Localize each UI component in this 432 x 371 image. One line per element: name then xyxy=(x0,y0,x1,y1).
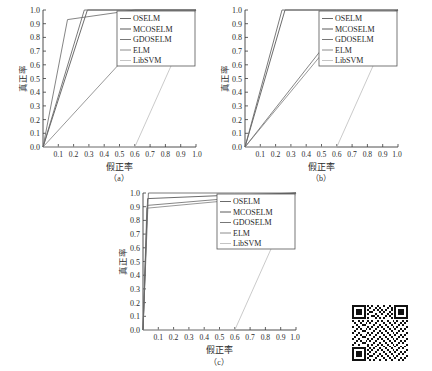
panel-caption-a: （a） xyxy=(109,174,129,183)
y-tick-label: 0.1 xyxy=(130,312,140,321)
y-tick-label: 0.8 xyxy=(30,33,40,42)
panel-caption-b: （b） xyxy=(311,174,331,183)
y-tick-label: 0.2 xyxy=(232,116,242,125)
x-tick-label: 0.6 xyxy=(130,150,140,159)
legend-label-oselm-c: OSELM xyxy=(233,197,260,206)
x-tick-label: 0.9 xyxy=(176,150,186,159)
y-tick-label: 0.0 xyxy=(232,143,242,152)
qr-code xyxy=(352,305,408,361)
y-tick-label: 0.3 xyxy=(30,102,40,111)
y-tick-label: 0.2 xyxy=(130,299,140,308)
y-tick-label: 0.4 xyxy=(130,271,140,280)
x-tick-label: 0.8 xyxy=(261,333,271,342)
legend-label-elm-b: ELM xyxy=(335,46,352,55)
y-tick-label: 0.7 xyxy=(232,47,242,56)
y-tick-label: 0.0 xyxy=(30,143,40,152)
legend-label-oselm-a: OSELM xyxy=(133,14,160,23)
legend-label-libsvm-a: LibSVM xyxy=(133,56,161,65)
y-tick-label: 0.5 xyxy=(30,75,40,84)
y-tick-label: 0.0 xyxy=(130,326,140,335)
x-axis-label-a: 假正率 xyxy=(106,161,133,172)
legend-label-mcoselm-c: MCOSELM xyxy=(233,208,273,217)
x-tick-label: 0.1 xyxy=(256,150,266,159)
legend-label-mcoselm-b: MCOSELM xyxy=(335,25,375,34)
x-tick-label: 0.7 xyxy=(145,150,155,159)
legend-label-libsvm-c: LibSVM xyxy=(233,239,261,248)
qr-code-svg xyxy=(352,305,408,361)
x-tick-label: 0.9 xyxy=(378,150,388,159)
y-tick-label: 0.6 xyxy=(232,61,242,70)
x-tick-label: 1.0 xyxy=(290,333,300,342)
x-tick-label: 0.6 xyxy=(332,150,342,159)
chart-panel-b: 1.0 0.9 0.8 0.7 0.6 0.5 0.4 0.3 0.2 0.1 … xyxy=(216,0,432,185)
legend-label-elm-a: ELM xyxy=(133,46,150,55)
legend-label-elm-c: ELM xyxy=(233,229,250,238)
x-tick-label: 0.5 xyxy=(215,333,225,342)
y-tick-label: 0.9 xyxy=(232,20,242,29)
x-tick-label: 0.4 xyxy=(199,333,209,342)
y-tick-label: 0.6 xyxy=(30,61,40,70)
x-tick-label: 1.0 xyxy=(392,150,402,159)
y-tick-label: 0.8 xyxy=(232,33,242,42)
x-tick-label: 0.5 xyxy=(317,150,327,159)
legend-c: OSELM MCOSELM GDOSELM ELM LibSVM xyxy=(217,194,295,249)
x-tick-label: 0.4 xyxy=(301,150,311,159)
x-tick-label: 0.5 xyxy=(115,150,125,159)
x-tick-label: 0.2 xyxy=(271,150,281,159)
figure-roc-curves: 1.0 0.9 0.8 0.7 0.6 0.5 0.4 0.3 0.2 0.1 … xyxy=(0,0,432,371)
y-tick-label: 0.8 xyxy=(130,216,140,225)
y-tick-label: 0.2 xyxy=(30,116,40,125)
x-axis-ticklabels-b: 0.1 0.2 0.3 0.4 0.5 0.6 0.7 0.8 0.9 1.0 xyxy=(256,150,402,159)
y-tick-label: 0.7 xyxy=(130,230,140,239)
x-axis-ticklabels-a: 0.1 0.2 0.3 0.4 0.5 0.6 0.7 0.8 0.9 1.0 xyxy=(54,150,202,159)
x-tick-label: 0.9 xyxy=(276,333,286,342)
chart-panel-a: 1.0 0.9 0.8 0.7 0.6 0.5 0.4 0.3 0.2 0.1 … xyxy=(0,0,216,185)
y-axis-label-c: 真正率 xyxy=(118,248,128,275)
chart-svg-b: 1.0 0.9 0.8 0.7 0.6 0.5 0.4 0.3 0.2 0.1 … xyxy=(216,0,432,185)
x-axis-ticklabels-c: 0.1 0.2 0.3 0.4 0.5 0.6 0.7 0.8 0.9 1.0 xyxy=(154,333,300,342)
x-tick-label: 0.4 xyxy=(99,150,109,159)
x-tick-label: 0.1 xyxy=(154,333,164,342)
y-tick-label: 0.5 xyxy=(232,75,242,84)
legend-label-gdoselm-c: GDOSELM xyxy=(233,218,272,227)
y-axis-ticklabels-c: 1.0 0.9 0.8 0.7 0.6 0.5 0.4 0.3 0.2 0.1 … xyxy=(130,189,140,335)
x-tick-label: 0.8 xyxy=(363,150,373,159)
x-tick-label: 0.7 xyxy=(245,333,255,342)
panel-caption-c: （c） xyxy=(209,358,229,367)
chart-panel-c: 1.0 0.9 0.8 0.7 0.6 0.5 0.4 0.3 0.2 0.1 … xyxy=(100,183,320,371)
y-tick-label: 0.4 xyxy=(232,88,242,97)
y-tick-label: 1.0 xyxy=(30,6,40,15)
x-tick-label: 0.2 xyxy=(169,333,179,342)
legend-a: OSELM MCOSELM GDOSELM ELM LibSVM xyxy=(117,11,195,66)
x-tick-label: 0.6 xyxy=(230,333,240,342)
x-axis-label-b: 假正率 xyxy=(308,161,335,172)
x-tick-label: 0.3 xyxy=(184,333,194,342)
x-tick-label: 0.3 xyxy=(286,150,296,159)
legend-label-libsvm-b: LibSVM xyxy=(335,56,363,65)
y-axis-label-a: 真正率 xyxy=(18,65,28,92)
x-tick-label: 0.7 xyxy=(347,150,357,159)
x-tick-label: 0.3 xyxy=(84,150,94,159)
x-axis-ticks-c xyxy=(158,327,296,330)
y-tick-label: 0.3 xyxy=(232,102,242,111)
y-tick-label: 0.9 xyxy=(130,203,140,212)
x-tick-label: 0.2 xyxy=(69,150,79,159)
y-tick-label: 0.1 xyxy=(30,129,40,138)
x-tick-label: 0.8 xyxy=(161,150,171,159)
y-tick-label: 0.5 xyxy=(130,258,140,267)
y-axis-ticklabels-a: 1.0 0.9 0.8 0.7 0.6 0.5 0.4 0.3 0.2 0.1 … xyxy=(30,6,40,152)
legend-label-gdoselm-b: GDOSELM xyxy=(335,35,374,44)
legend-b: OSELM MCOSELM GDOSELM ELM LibSVM xyxy=(319,11,397,66)
y-tick-label: 0.7 xyxy=(30,47,40,56)
y-tick-label: 1.0 xyxy=(130,189,140,198)
y-tick-label: 0.6 xyxy=(130,244,140,253)
y-axis-label-b: 真正率 xyxy=(220,65,230,92)
y-tick-label: 1.0 xyxy=(232,6,242,15)
y-tick-label: 0.4 xyxy=(30,88,40,97)
x-axis-label-c: 假正率 xyxy=(206,344,233,355)
x-tick-label: 0.1 xyxy=(54,150,64,159)
y-tick-label: 0.3 xyxy=(130,285,140,294)
legend-label-mcoselm-a: MCOSELM xyxy=(133,25,173,34)
y-tick-label: 0.1 xyxy=(232,129,242,138)
chart-svg-c: 1.0 0.9 0.8 0.7 0.6 0.5 0.4 0.3 0.2 0.1 … xyxy=(100,183,320,371)
